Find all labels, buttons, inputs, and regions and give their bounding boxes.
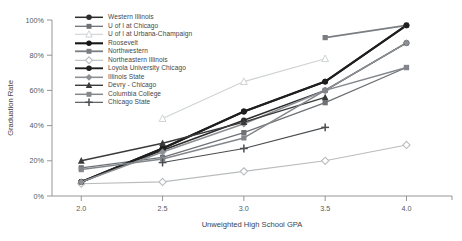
y-tick-label: 0% [34, 192, 45, 201]
marker-square [323, 88, 328, 93]
legend-swatch [74, 30, 104, 39]
legend-item[interactable]: U of I at Chicago [74, 22, 206, 31]
legend-swatch [74, 47, 104, 56]
legend-item[interactable]: Illinois State [74, 73, 206, 82]
legend-label: Northwestern [104, 47, 148, 56]
y-axis-title: Graduation Rate [6, 80, 15, 136]
legend-item[interactable]: Devry - Chicago [74, 81, 206, 90]
legend-label: Northeastern Illinois [104, 56, 168, 65]
legend-label: Western Illinois [104, 13, 154, 22]
legend-label: Loyola University Chicago [104, 64, 186, 73]
marker-square [87, 49, 92, 54]
legend-label: Illinois State [104, 73, 144, 82]
marker-square [87, 23, 92, 28]
marker-square [404, 65, 409, 70]
x-tick-label: 2.5 [158, 204, 168, 213]
series-line [325, 25, 406, 37]
y-tick-label: 60% [30, 86, 45, 95]
marker-plus [85, 99, 92, 106]
marker-circle [322, 79, 328, 85]
legend-item[interactable]: U of I at Urbana-Champaign [74, 30, 206, 39]
legend-item[interactable]: Northeastern Illinois [74, 56, 206, 65]
marker-square [241, 130, 246, 135]
y-tick-label: 40% [30, 121, 45, 130]
marker-square [87, 92, 92, 97]
x-axis-title: Unweighted High School GPA [202, 220, 304, 229]
legend-swatch [74, 39, 104, 48]
legend-swatch [74, 13, 104, 22]
y-tick-label: 80% [30, 51, 45, 60]
legend-item[interactable]: Columbia College [74, 90, 206, 99]
marker-diamond-open [322, 157, 329, 164]
marker-circle [404, 22, 410, 28]
marker-diamond [86, 74, 93, 81]
legend-swatch [74, 90, 104, 99]
marker-circle [241, 109, 247, 115]
legend-swatch [74, 64, 104, 73]
legend-swatch [74, 22, 104, 31]
marker-circle [86, 15, 92, 21]
marker-square [241, 135, 246, 140]
x-tick-label: 2.0 [76, 204, 86, 213]
legend-item[interactable]: Roosevelt [74, 39, 206, 48]
legend-label: Chicago State [104, 98, 150, 107]
marker-triangle [322, 94, 329, 101]
chart-legend: Western IllinoisU of I at ChicagoU of I … [74, 13, 206, 107]
legend-swatch [74, 56, 104, 65]
legend-item[interactable]: Chicago State [74, 98, 206, 107]
marker-square [323, 100, 328, 105]
marker-plus [240, 145, 248, 153]
legend-label: Devry - Chicago [104, 81, 156, 90]
graduation-rate-chart: 0%20%40%60%80%100%2.02.53.03.54.0Unweigh… [0, 0, 462, 241]
marker-circle [86, 40, 92, 46]
legend-label: Roosevelt [104, 39, 138, 48]
legend-label: U of I at Urbana-Champaign [104, 30, 192, 39]
legend-swatch [74, 73, 104, 82]
y-tick-label: 20% [30, 156, 45, 165]
legend-item[interactable]: Northwestern [74, 47, 206, 56]
marker-plus [321, 123, 329, 131]
legend-swatch [74, 98, 104, 107]
marker-diamond-open [159, 178, 166, 185]
y-tick-label: 100% [26, 16, 45, 25]
marker-triangle-open [322, 55, 329, 62]
marker-circle [86, 66, 92, 72]
marker-square [323, 35, 328, 40]
legend-label: U of I at Chicago [104, 22, 158, 31]
marker-square [79, 167, 84, 172]
plot-canvas: 0%20%40%60%80%100%2.02.53.03.54.0Unweigh… [0, 0, 462, 241]
marker-triangle-open [159, 115, 166, 122]
marker-diamond-open [240, 168, 247, 175]
marker-diamond-open [86, 57, 93, 64]
x-tick-label: 3.0 [239, 204, 249, 213]
series-4 [325, 25, 406, 37]
legend-swatch [74, 81, 104, 90]
x-tick-label: 3.5 [320, 204, 330, 213]
marker-diamond [403, 39, 410, 46]
legend-item[interactable]: Loyola University Chicago [74, 64, 206, 73]
marker-diamond-open [403, 141, 410, 148]
legend-label: Columbia College [104, 90, 161, 99]
x-tick-label: 4.0 [401, 204, 411, 213]
legend-item[interactable]: Western Illinois [74, 13, 206, 22]
